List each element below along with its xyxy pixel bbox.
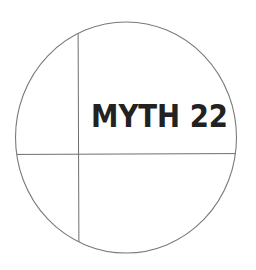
myth-label: MYTH 22 (91, 100, 228, 132)
outline-circle (16, 22, 237, 253)
vertical-divider (78, 0, 79, 270)
myth-diagram (0, 0, 256, 270)
horizontal-divider (0, 154, 256, 155)
